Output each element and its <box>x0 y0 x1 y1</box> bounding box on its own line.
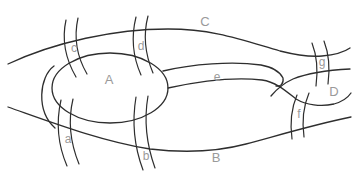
outer-top-boundary-curve <box>8 29 350 64</box>
surface-curves-diagram: A B C D a b c d e f g <box>0 0 364 174</box>
curve-d-label: d <box>138 39 145 53</box>
curve-f-arc-2 <box>303 93 309 137</box>
tube-e-lower-curve <box>168 79 351 105</box>
region-d-label: D <box>329 84 338 99</box>
left-end-cap-curve <box>42 66 55 128</box>
region-b-label: B <box>212 150 221 165</box>
curve-a-label: a <box>65 132 72 146</box>
curve-c-arc-2 <box>76 18 87 74</box>
tube-e-upper-curve <box>163 63 283 86</box>
curve-f-arc-1 <box>291 95 297 139</box>
region-c-label: C <box>200 14 209 29</box>
diagram-canvas: A B C D a b c d e f g <box>0 0 364 174</box>
curve-g-arc-1 <box>312 43 317 86</box>
curve-c-label: c <box>71 41 77 55</box>
curve-e-label: e <box>214 70 221 84</box>
region-a-label: A <box>105 72 114 87</box>
curve-f-label: f <box>297 107 301 121</box>
curve-b-label: b <box>143 149 150 163</box>
curve-g-label: g <box>319 55 326 69</box>
curve-b-arc-1 <box>134 97 143 170</box>
